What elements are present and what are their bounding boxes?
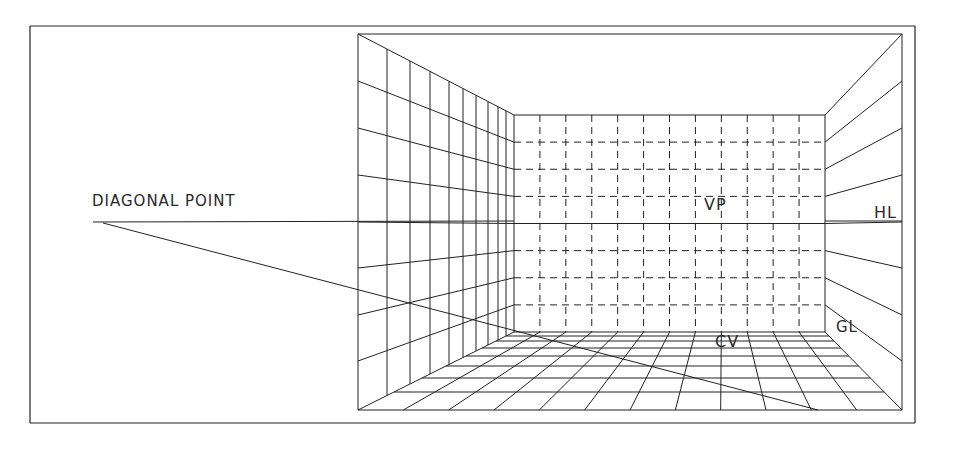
floor-radial — [539, 332, 617, 410]
corner-top-left — [358, 34, 514, 115]
back-wall-dashed-grid — [514, 115, 825, 332]
floor-radial — [675, 332, 695, 410]
right-wall-horizontal — [825, 128, 902, 169]
left-wall-horizontal — [358, 278, 514, 315]
floor-radial — [585, 332, 644, 410]
vanishing-point-label: VP — [704, 195, 727, 214]
left-wall-horizontal — [358, 81, 514, 142]
left-wall-horizontal — [358, 251, 514, 268]
right-wall-horizontal — [825, 222, 902, 224]
floor-grid — [394, 332, 884, 410]
floor-radial — [773, 332, 811, 410]
perspective-diagram: DIAGONAL POINT VP HL GL CV — [0, 0, 966, 452]
diagonal-point-label: DIAGONAL POINT — [92, 192, 236, 210]
corner-top-right — [825, 34, 902, 115]
floor-radial — [449, 332, 566, 410]
left-wall-horizontal — [358, 222, 514, 224]
corner-bottom-left — [358, 332, 514, 410]
ground-line-label: GL — [836, 318, 858, 336]
center-of-vision-label: CV — [715, 332, 739, 351]
left-wall-horizontal — [358, 128, 514, 169]
floor-radial — [747, 332, 766, 410]
right-wall-horizontal — [825, 81, 902, 142]
outer-frame — [30, 26, 915, 423]
corner-bottom-right — [825, 332, 902, 410]
floor-radial — [799, 332, 857, 410]
floor-radial — [494, 332, 592, 410]
left-wall-horizontal — [358, 305, 514, 361]
floor-radial — [403, 332, 540, 410]
left-wall-horizontal — [358, 175, 514, 196]
horizon-line-label: HL — [874, 203, 897, 222]
horizon-line-left — [93, 221, 514, 222]
right-wall-horizontal — [825, 278, 902, 315]
right-wall-horizontal — [825, 251, 902, 268]
right-wall-horizontal — [825, 175, 902, 196]
floor-radial — [630, 332, 670, 410]
